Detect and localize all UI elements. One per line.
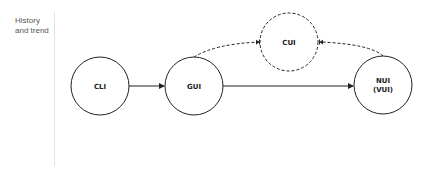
node-cui-label: CUI bbox=[282, 39, 295, 47]
edge-nui-cui bbox=[320, 42, 383, 56]
edge-gui-cui bbox=[194, 42, 259, 57]
node-nui: NUI (VUI) bbox=[354, 56, 412, 114]
node-gui-label: GUI bbox=[187, 83, 201, 91]
evolution-diagram: CLI GUI CUI NUI (VUI) bbox=[0, 0, 428, 182]
node-vui-label: (VUI) bbox=[373, 86, 393, 94]
node-cli-label: CLI bbox=[94, 83, 106, 91]
node-cli: CLI bbox=[71, 57, 129, 115]
node-nui-label: NUI bbox=[376, 77, 390, 85]
node-gui: GUI bbox=[165, 57, 223, 115]
node-cui: CUI bbox=[260, 13, 318, 71]
